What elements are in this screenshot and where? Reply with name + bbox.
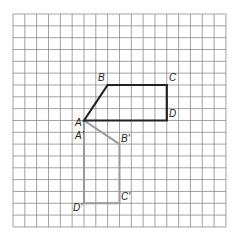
label-c: C (169, 72, 177, 83)
image-quadrilateral-a-prime-b-prime-c-prime-d-prime (84, 121, 120, 204)
label-b: B (98, 72, 105, 83)
label-a-prime: A' (74, 130, 85, 141)
label-c-prime: C' (121, 191, 131, 202)
label-d: D (169, 108, 176, 119)
label-d-prime: D' (73, 202, 83, 213)
grid-diagram: B C D A A' B' C' D' (0, 0, 237, 240)
label-b-prime: B' (121, 133, 131, 144)
label-a: A (74, 117, 82, 128)
original-quadrilateral-abcd (84, 85, 167, 121)
